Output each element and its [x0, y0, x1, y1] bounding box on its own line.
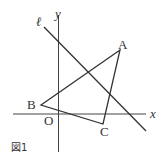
line-l-label: ℓ [36, 14, 42, 29]
figure-caption: 図1 [11, 142, 27, 153]
x-axis-label: x [149, 106, 156, 121]
point-b-label: B [27, 97, 36, 112]
line-l [44, 27, 146, 131]
origin-label: O [44, 113, 53, 128]
point-a-label: A [118, 37, 128, 52]
point-c-label: C [100, 124, 109, 139]
y-axis-label: y [53, 6, 61, 21]
coordinate-diagram: x y O ℓ A B C 図1 [0, 0, 167, 158]
